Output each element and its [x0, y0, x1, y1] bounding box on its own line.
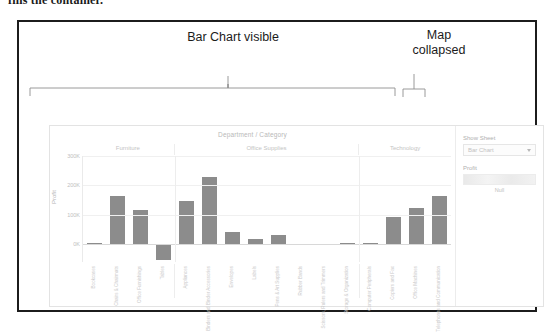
- bar-chart-worksheet[interactable]: Department / Category FurnitureOffice Su…: [50, 126, 455, 306]
- bars-container: [83, 156, 451, 262]
- x-axis-tick-labels: BookcasesChairs & ChairmatsOffice Furnis…: [82, 264, 451, 306]
- group-header-furniture: Furniture: [82, 144, 175, 155]
- show-sheet-label: Show Sheet: [463, 135, 536, 141]
- y-tick-label: 0K: [73, 241, 80, 247]
- tableau-dashboard: Department / Category FurnitureOffice Su…: [49, 125, 544, 307]
- x-label-slot: Office Machines: [405, 264, 428, 306]
- x-label-slot: Telephones and Communication: [428, 264, 451, 306]
- annotation-bar-chart-visible: Bar Chart visible: [133, 30, 333, 45]
- bar-slot[interactable]: [382, 156, 405, 262]
- x-label-slot: Copiers and Fax: [382, 264, 405, 306]
- grid-line: [83, 215, 451, 216]
- group-divider: [359, 156, 360, 262]
- x-label-slot: Labels: [243, 264, 266, 306]
- profit-legend-label: Profit: [463, 165, 536, 171]
- bar[interactable]: [179, 201, 194, 245]
- bar[interactable]: [432, 196, 447, 244]
- bar-slot[interactable]: [290, 156, 313, 262]
- group-divider: [175, 156, 176, 262]
- x-tick-label: Labels: [253, 266, 258, 280]
- bar-slot[interactable]: [267, 156, 290, 262]
- x-label-slot: Tables: [151, 264, 174, 306]
- x-label-slot: Pens & Art Supplies: [267, 264, 290, 306]
- x-group-separator: [174, 264, 175, 298]
- zero-line: [83, 244, 451, 245]
- grid-line: [83, 156, 451, 157]
- bar-slot[interactable]: [221, 156, 244, 262]
- bar-slot[interactable]: [428, 156, 451, 262]
- x-label-slot: Binders and Binder Accessories: [197, 264, 220, 306]
- x-label-slot: Envelopes: [220, 264, 243, 306]
- dashboard-controls-panel: Show Sheet Bar Chart Profit Null: [455, 126, 543, 306]
- bar-slot[interactable]: [359, 156, 382, 262]
- group-header-row: FurnitureOffice SuppliesTechnology: [82, 144, 451, 155]
- x-tick-label: Office Machines: [414, 266, 419, 299]
- x-label-slot: Bookcases: [82, 264, 105, 306]
- bar-slot[interactable]: [106, 156, 129, 262]
- bar-slot[interactable]: [313, 156, 336, 262]
- bar-slot[interactable]: [198, 156, 221, 262]
- bar-slot[interactable]: [175, 156, 198, 262]
- group-header-office-supplies: Office Supplies: [175, 144, 360, 155]
- x-tick-label: Telephones and Communication: [437, 266, 442, 332]
- x-label-slot: Office Furnishings: [128, 264, 151, 306]
- bar-slot[interactable]: [129, 156, 152, 262]
- bar[interactable]: [225, 232, 240, 245]
- x-tick-label: Rubber Bands: [299, 266, 304, 295]
- x-tick-label: Computer Peripherals: [368, 266, 373, 311]
- profit-color-legend[interactable]: Profit Null: [463, 165, 536, 193]
- x-label-slot: Storage & Organization: [336, 264, 359, 306]
- x-tick-label: Scissors, Rulers and Trimmers: [322, 266, 327, 329]
- grid-line: [83, 185, 451, 186]
- bar[interactable]: [271, 235, 286, 244]
- bar-slot[interactable]: [83, 156, 106, 262]
- y-axis-title: Profit: [51, 190, 57, 204]
- bar[interactable]: [202, 177, 217, 245]
- group-header-technology: Technology: [359, 144, 451, 155]
- x-label-slot: Scissors, Rulers and Trimmers: [313, 264, 336, 306]
- x-tick-label: Bookcases: [91, 266, 96, 288]
- plot-area: [82, 156, 451, 262]
- x-group-separator: [359, 264, 360, 298]
- figure-frame: Department / Category FurnitureOffice Su…: [17, 20, 537, 312]
- bar-slot[interactable]: [152, 156, 175, 262]
- document-text-fragment: fills the container.: [8, 0, 103, 8]
- x-label-slot: Computer Peripherals: [359, 264, 382, 306]
- chevron-down-icon[interactable]: [527, 149, 531, 152]
- x-tick-label: Appliances: [183, 266, 188, 288]
- chart-column-title: Department / Category: [50, 131, 455, 138]
- show-sheet-select[interactable]: Bar Chart: [463, 144, 536, 156]
- bar-slot[interactable]: [405, 156, 428, 262]
- bar[interactable]: [386, 217, 401, 244]
- x-tick-label: Chairs & Chairmats: [114, 266, 119, 306]
- x-tick-label: Envelopes: [230, 266, 235, 287]
- x-tick-label: Office Furnishings: [137, 266, 142, 303]
- y-tick-label: 200K: [67, 182, 80, 188]
- bar-slot[interactable]: [244, 156, 267, 262]
- x-label-slot: Rubber Bands: [290, 264, 313, 306]
- y-tick-label: 100K: [67, 212, 80, 218]
- bar[interactable]: [156, 244, 171, 260]
- x-tick-label: Storage & Organization: [345, 266, 350, 314]
- legend-null-label: Null: [463, 187, 536, 193]
- bar-slot[interactable]: [336, 156, 359, 262]
- x-tick-label: Pens & Art Supplies: [276, 266, 281, 307]
- y-axis-tick-labels: 300K200K100K0K: [60, 156, 82, 262]
- x-tick-label: Binders and Binder Accessories: [207, 266, 212, 331]
- show-sheet-selected-value: Bar Chart: [468, 147, 494, 153]
- x-tick-label: Copiers and Fax: [391, 266, 396, 300]
- bar[interactable]: [110, 196, 125, 245]
- bar[interactable]: [409, 208, 424, 244]
- y-tick-label: 300K: [67, 153, 80, 159]
- x-label-slot: Appliances: [174, 264, 197, 306]
- annotation-map-collapsed: Map collapsed: [395, 28, 483, 58]
- x-tick-label: Tables: [160, 266, 165, 279]
- legend-gradient-bar[interactable]: [463, 174, 536, 185]
- x-label-slot: Chairs & Chairmats: [105, 264, 128, 306]
